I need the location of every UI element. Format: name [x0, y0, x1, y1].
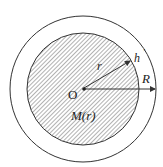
center-point: [82, 87, 86, 91]
label-R: R: [141, 71, 150, 86]
label-h-prime: ʼ: [143, 48, 146, 57]
label-O: O: [68, 87, 77, 102]
label-r: r: [97, 59, 102, 73]
label-mass: M(r): [70, 108, 96, 123]
sphere-diagram: O r h ʼ R M(r): [0, 0, 163, 167]
label-h: h: [134, 51, 140, 65]
